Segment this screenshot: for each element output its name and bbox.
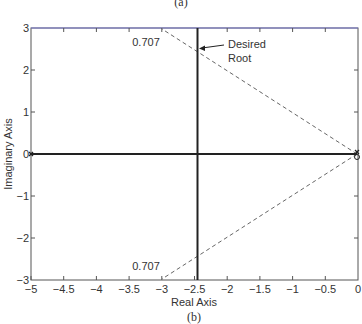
damping-label-upper: 0.707: [132, 36, 160, 48]
x-axis-label: Real Axis: [171, 296, 217, 308]
svg-text:1: 1: [23, 106, 29, 118]
svg-text:−1: −1: [16, 190, 29, 202]
damping-line-lower: [162, 154, 357, 279]
y-tick-labels: 3 2 1 0 −1 −2 −3: [16, 22, 29, 286]
desired-root-label-line2: Root: [228, 52, 251, 64]
svg-text:−3: −3: [16, 274, 29, 286]
x-tick-labels: −5 −4.5 −4 −3.5 −3 −2.5 −2 −1.5 −1 −0.5 …: [25, 283, 361, 295]
svg-text:2: 2: [23, 64, 29, 76]
svg-text:0: 0: [355, 283, 361, 295]
root-locus-chart: (a) −5 −4.5 −4 −3.5 −3 −2.5 −2 −1.5 −1 −…: [0, 0, 362, 324]
svg-text:−2: −2: [221, 283, 234, 295]
svg-text:−1.5: −1.5: [249, 283, 271, 295]
desired-root-label-line1: Desired: [228, 38, 266, 50]
caption-top: (a): [174, 0, 187, 9]
svg-text:−2.5: −2.5: [184, 283, 206, 295]
svg-text:−2: −2: [16, 232, 29, 244]
y-axis-label: Imaginary Axis: [2, 118, 14, 190]
svg-text:0: 0: [23, 148, 29, 160]
desired-root-arrow: [199, 45, 224, 51]
svg-text:−0.5: −0.5: [314, 283, 336, 295]
svg-text:−3.5: −3.5: [118, 283, 140, 295]
damping-label-lower: 0.707: [132, 260, 160, 272]
svg-text:−4.5: −4.5: [53, 283, 75, 295]
zero-marker-origin: [355, 155, 360, 160]
svg-text:−1: −1: [286, 283, 299, 295]
caption-bottom: (b): [187, 310, 201, 324]
svg-text:3: 3: [23, 22, 29, 34]
svg-text:−4: −4: [90, 283, 103, 295]
svg-text:−3: −3: [156, 283, 169, 295]
